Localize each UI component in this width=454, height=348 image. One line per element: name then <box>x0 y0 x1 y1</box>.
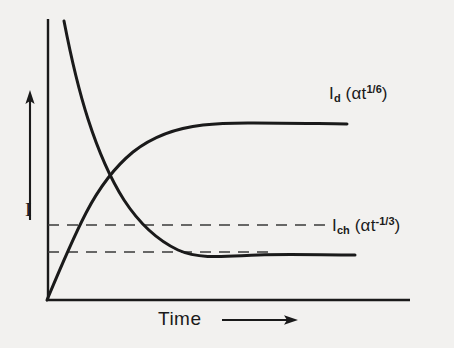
rising-curve-paren-close: ) <box>382 84 388 103</box>
figure-container: Id (αt1/6) Ich (αt-1/3) I Time <box>0 0 454 348</box>
decaying-curve-subscript: ch <box>337 224 350 236</box>
plot-canvas <box>0 0 454 348</box>
rising-curve-id <box>47 123 347 300</box>
time-arrow-right-icon <box>222 315 298 325</box>
proportional-alpha-symbol: α <box>351 84 361 103</box>
x-axis-label: Time <box>158 309 202 328</box>
proportional-alpha-symbol: α <box>361 216 371 235</box>
rising-curve-label: Id (αt1/6) <box>329 84 388 104</box>
decaying-curve-ich <box>64 21 355 257</box>
rising-curve-exponent: 1/6 <box>366 83 381 95</box>
decaying-curve-exponent: -1/3 <box>376 215 395 227</box>
decaying-curve-label: Ich (αt-1/3) <box>332 216 400 236</box>
y-axis-label: I <box>25 200 31 219</box>
rising-curve-subscript: d <box>334 92 341 104</box>
decaying-curve-paren-close: ) <box>395 216 401 235</box>
